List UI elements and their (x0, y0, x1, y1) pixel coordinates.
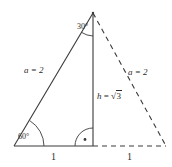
height-radicand: 3 (116, 90, 122, 101)
apex-angle-arc (82, 32, 94, 36)
left-side-value: a = 2 (24, 65, 44, 75)
base-right-label: 1 (127, 152, 132, 162)
base-right-value: 1 (127, 151, 132, 162)
apex-vertex-dot (92, 12, 94, 14)
right-side-value: a = 2 (128, 67, 148, 77)
right-side-label: a = 2 (128, 68, 148, 77)
right-angle-dot-icon (84, 138, 87, 141)
right-angle-arc (75, 128, 93, 146)
height-label: h = √3 (97, 92, 122, 101)
apex-angle-label: 30° (77, 23, 88, 31)
left-side-label: a = 2 (24, 66, 44, 75)
base-angle-value: 60° (18, 132, 29, 141)
left-side-line (14, 13, 93, 146)
height-equals: = (104, 91, 109, 101)
apex-angle-value: 30° (77, 22, 88, 31)
height-variable: h (97, 91, 102, 101)
base-left-label: 1 (51, 152, 56, 162)
base-left-value: 1 (51, 151, 56, 162)
base-angle-arc (30, 121, 44, 146)
right-side-dashed-line (93, 13, 166, 146)
base-angle-label: 60° (18, 133, 29, 141)
